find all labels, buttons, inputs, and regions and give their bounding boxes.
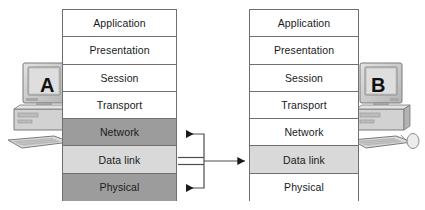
connector-layer: [0, 0, 425, 210]
arrow-to-network: [186, 134, 204, 158]
diagram-canvas: A B Application Presentation S: [0, 0, 425, 210]
arrow-to-data-link: [178, 158, 245, 165]
arrow-to-physical: [186, 165, 204, 189]
